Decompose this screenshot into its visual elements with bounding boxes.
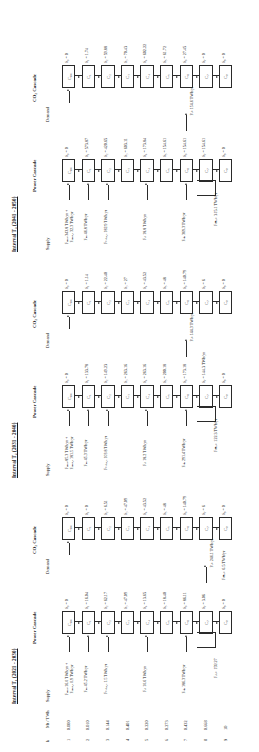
co2-cascade-cell-label: C₆ — [184, 526, 189, 530]
co2-cascade-box-T1-5: C₄ — [140, 517, 153, 540]
power-cascade-cell-label: C₀₀₀ — [66, 167, 71, 174]
supply-flow-label-T3-0: Fₐₙₑᵥ 343.8 TWh/yr +Fₐₙₑᵥ,ₑ 32.3 TWh/yr — [64, 198, 74, 256]
co2-cascade-cell-label: C₆ — [184, 300, 189, 304]
power-connector-arrow-T1-2 — [118, 622, 120, 624]
supply-flow-line: Fₐₙₑᵥ,ₑ 181.5 TWh/yr — [69, 424, 74, 482]
co2-connector-arrow-T2-7 — [216, 302, 218, 304]
co2-delta-T2-6: δ₆ = 140.79 — [182, 270, 187, 289]
co2-cascade-cell-label: C₄ — [145, 526, 150, 530]
co2-connector-arrow-T2-5 — [176, 302, 178, 304]
k-value-row-1: 1 — [67, 739, 71, 741]
power-cascade-cell-label: C₈ — [223, 394, 228, 398]
supply-flow-line: Fₐₙₑᵥ,ₑ 0.9 TWh/yr — [69, 650, 74, 708]
mt-value-row-2: 0.010 — [86, 720, 90, 730]
supply-flow-label-T2-2: Fₛₒₗₐᵣ,ₑ 103.8 TWh/yr — [103, 424, 108, 482]
co2-delta-T2-7: δ₇ = 6 — [201, 279, 206, 289]
supply-arrow-head-T1-4 — [185, 635, 187, 637]
power-cascade-box-T3-3: C₂ — [101, 159, 114, 182]
co2-connector-arrow-T1-4 — [157, 528, 159, 530]
power-cascade-cell-label: C₂ — [105, 620, 110, 624]
co2-cascade-cell-label: C₇ — [203, 300, 208, 304]
power-delta-T2-1: δ₁ = 133.78 — [84, 364, 89, 383]
power-cascade-cell-label: C₁ — [86, 394, 91, 398]
power-cascade-box-T3-8: C₇ — [199, 159, 212, 182]
supply-arrow-head-T2-3 — [145, 409, 147, 411]
power-connector-arrow-T3-4 — [157, 170, 159, 172]
co2-cascade-box-T2-7: C₆ — [180, 291, 193, 314]
power-cascade-cell-label: C₆ — [184, 168, 189, 172]
co2-delta-T2-8: δ₈ = 0 — [221, 279, 226, 289]
supply-arrow-head-T2-1 — [87, 409, 89, 411]
supply-arrow-line-T1-3 — [147, 637, 148, 652]
co2-cascade-box-T1-7: C₆ — [180, 517, 193, 540]
co2-cascade-cell-label: C₈ — [223, 74, 228, 78]
power-delta-T3-2: δ₂ = 420.65 — [103, 138, 108, 157]
co2-delta-T1-1: δ₁ = 0 — [84, 505, 89, 515]
supply-flow-line: Fₒₕ 186.3 TWh/yr — [181, 650, 186, 708]
power-cascade-cell-label: C₀₀₀ — [66, 393, 71, 400]
demand-header-T3: Demand — [46, 107, 50, 122]
power-delta-T1-1: δ₁ = 16.04 — [84, 592, 89, 609]
k-value-row-4: 4 — [126, 739, 130, 741]
co2-inlet-arrow-T1 — [67, 541, 69, 543]
co2-cascade-box-T3-8: C₇ — [199, 65, 212, 88]
power-cascade-box-T3-5: C₄ — [140, 159, 153, 182]
supply-flow-line: Fₐₙₑᵥ,ₑ 32.3 TWh/yr — [69, 198, 74, 256]
power-cascade-cell-label: C₂ — [105, 394, 110, 398]
demand-arrow-line-T3-0 — [186, 115, 187, 131]
co2-connector-arrow-T1-2 — [118, 528, 120, 530]
co2-cascade-box-T2-6: C₅ — [160, 291, 173, 314]
supply-arrow-head-T1-3 — [145, 635, 147, 637]
co2-cascade-cell-label: C₅ — [164, 526, 169, 530]
co2-inlet-arrow-T3 — [67, 89, 69, 91]
co2-cascade-cell-label: C₂ — [105, 74, 110, 78]
supply-arrow-head-T1-1 — [87, 635, 89, 637]
power-cascade-cell-label: C₃ — [125, 168, 130, 172]
power-delta-T3-4: δ₄ = 173.84 — [142, 138, 147, 157]
power-delta-T1-7: δ₇ = 3.06 — [201, 594, 206, 609]
power-cascade-cell-label: C₈ — [223, 620, 228, 624]
mt-value-row-7: 0.432 — [184, 720, 188, 730]
power-cascade-box-T1-7: C₆ — [180, 611, 193, 634]
co2-cascade-cell-label: C₇ — [203, 526, 208, 530]
power-connector-arrow-T3-0 — [78, 170, 80, 172]
co2-delta-T1-5: δ₅ = 48 — [162, 503, 167, 515]
co2-connector-arrow-T1-0 — [78, 528, 80, 530]
co2-delta-T1-2: δ₂ = 6.51 — [103, 500, 108, 515]
supply-flow-line: Fₑₗ 18.8 TWh/yr — [142, 198, 147, 256]
co2-inlet-line-T1 — [69, 543, 70, 555]
power-cascade-cell-label: C₁ — [86, 168, 91, 172]
co2-cascade-cell-label: C₁ — [86, 526, 91, 530]
co2-cascade-header-T2: CO₂ Cascade — [32, 300, 37, 328]
co2-cascade-cell-label: C₀₀₀ — [66, 299, 71, 306]
power-cascade-cell-label: C₆ — [184, 620, 189, 624]
supply-flow-line: Fₙₑ 45.3 TWh/yr — [83, 424, 88, 482]
co2-delta-T1-3: δ₃ = 47.09 — [123, 498, 128, 515]
power-cascade-cell-label: C₃ — [125, 620, 130, 624]
co2-delta-T3-1: δ₁ = 1.74 — [84, 48, 89, 63]
power-cascade-header-T1: Power Cascade — [32, 611, 37, 644]
supply-flow-line: Fₒₕ 291.4 TWh/yr — [181, 424, 186, 482]
co2-delta-T3-3: δ₃ = 70.43 — [123, 46, 128, 63]
power-delta-T1-4: δ₄ = 13.65 — [142, 592, 147, 609]
power-cascade-cell-label: C₃ — [125, 394, 130, 398]
co2-cascade-box-T2-4: C₃ — [121, 291, 134, 314]
co2-connector-arrow-T3-5 — [176, 76, 178, 78]
power-cascade-cell-label: C₄ — [145, 620, 150, 624]
co2-connector-arrow-T3-1 — [98, 76, 100, 78]
co2-cascade-cell-label: C₈ — [223, 300, 228, 304]
co2-cascade-box-T2-3: C₂ — [101, 291, 114, 314]
supply-header-T1: Supply — [46, 690, 50, 702]
co2-cascade-cell-label: C₃ — [125, 74, 130, 78]
rotated-figure-wrapper: kMt / TWh1234567890.0000.0100.1440.4010.… — [0, 0, 259, 752]
supply-arrow-head-T3-0 — [67, 183, 69, 185]
supply-flow-label-T1-2: Fₛₒₗₐᵣ,ₑ 1.5 TWh/yr — [103, 650, 108, 708]
co2-cascade-box-T3-7: C₆ — [180, 65, 193, 88]
power-cascade-box-T3-9: C₈ — [219, 159, 232, 182]
co2-cascade-cell-label: C₁ — [86, 74, 91, 78]
co2-delta-T2-0: δ₀ = 0 — [64, 279, 69, 289]
supply-flow-label-T2-3: Fₑₗ 18.2 TWh/yr — [142, 424, 147, 482]
power-connector-arrow-T1-6 — [196, 622, 198, 624]
supply-arrow-head-T2-4 — [185, 409, 187, 411]
co2-cascade-cell-label: C₅ — [164, 300, 169, 304]
